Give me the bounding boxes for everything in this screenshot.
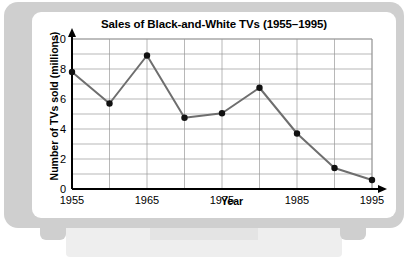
svg-text:10: 10	[54, 33, 66, 45]
chart-screenshot: Sales of Black-and-White TVs (1955–1995)…	[0, 0, 408, 257]
svg-text:1965: 1965	[135, 194, 159, 206]
svg-text:1995: 1995	[360, 194, 384, 206]
svg-text:2: 2	[60, 153, 66, 165]
svg-text:8: 8	[60, 63, 66, 75]
svg-text:1975: 1975	[210, 194, 234, 206]
y-tick-labels: 0246810	[54, 33, 66, 195]
svg-text:1955: 1955	[60, 194, 84, 206]
svg-text:4: 4	[60, 123, 66, 135]
plot-area: 0246810 19551965197519851995	[32, 12, 396, 218]
x-tick-labels: 19551965197519851995	[60, 194, 384, 206]
svg-text:1985: 1985	[285, 194, 309, 206]
chart-figure: Sales of Black-and-White TVs (1955–1995)…	[32, 12, 396, 218]
svg-text:6: 6	[60, 93, 66, 105]
